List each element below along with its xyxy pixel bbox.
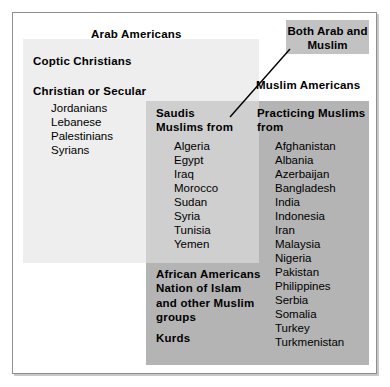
list-item: Azerbaijan (275, 167, 344, 181)
both-arab-and-muslim-label: Both Arab and Muslim (286, 24, 369, 53)
list-item: Serbia (275, 293, 344, 307)
list-item: Philippines (275, 279, 344, 293)
list-item: Nigeria (275, 251, 344, 265)
diagram-frame: Arab Americans Coptic Christians Christi… (12, 12, 377, 374)
list-item: Yemen (174, 237, 218, 251)
list-item: Iran (275, 223, 344, 237)
list-item: Somalia (275, 307, 344, 321)
list-item: Syria (174, 209, 218, 223)
kurds-block: Kurds (156, 331, 190, 345)
list-item: Malaysia (275, 237, 344, 251)
list-item: Afghanistan (275, 139, 344, 153)
muslim-americans-set-title: Muslim Americans (256, 78, 360, 92)
list-item: Bangladesh (275, 181, 344, 195)
list-item: Iraq (174, 167, 218, 181)
venn-diagram-figure: Arab Americans Coptic Christians Christi… (0, 0, 390, 387)
christian-or-secular-heading: Christian or Secular (33, 84, 146, 98)
list-item: Egypt (174, 153, 218, 167)
practicing-muslims-heading: Practicing Muslims from (257, 106, 365, 134)
arab-americans-set-title: Arab Americans (91, 27, 182, 41)
list-item: Tunisia (174, 223, 218, 237)
list-item: Palestinians (51, 129, 113, 143)
saudis-muslims-from-heading: Saudis Muslims from (156, 106, 233, 134)
intersection-country-list: AlgeriaEgyptIraqMoroccoSudanSyriaTunisia… (174, 139, 218, 251)
list-item: Indonesia (275, 209, 344, 223)
list-item: Sudan (174, 195, 218, 209)
both-arab-and-muslim-callout: Both Arab and Muslim (286, 20, 369, 54)
list-item: Jordanians (51, 101, 113, 115)
list-item: Morocco (174, 181, 218, 195)
christian-or-secular-list: JordaniansLebanesePalestiniansSyrians (51, 101, 113, 157)
list-item: Turkey (275, 321, 344, 335)
list-item: Pakistan (275, 265, 344, 279)
african-americans-nation-of-islam-block: African Americans Nation of Islam and ot… (156, 267, 261, 325)
list-item: India (275, 195, 344, 209)
list-item: Albania (275, 153, 344, 167)
list-item: Syrians (51, 143, 113, 157)
coptic-christians-heading: Coptic Christians (33, 54, 132, 68)
list-item: Lebanese (51, 115, 113, 129)
list-item: Algeria (174, 139, 218, 153)
practicing-muslims-list: AfghanistanAlbaniaAzerbaijanBangladeshIn… (275, 139, 344, 349)
list-item: Turkmenistan (275, 335, 344, 349)
